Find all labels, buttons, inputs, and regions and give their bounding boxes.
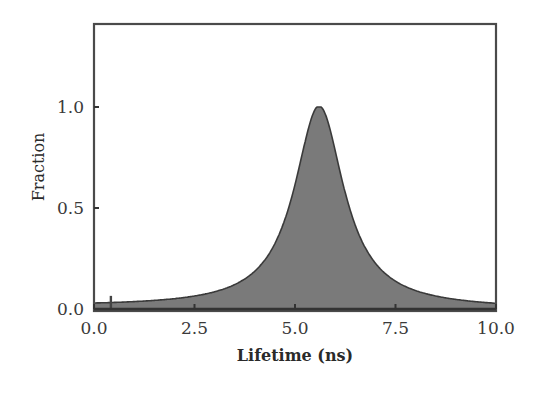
x-tick-label: 7.5 (382, 318, 409, 338)
x-tick-label: 10.0 (477, 318, 515, 338)
x-axis-title: Lifetime (ns) (237, 346, 353, 365)
x-tick-label: 5.0 (281, 318, 308, 338)
y-tick-label: 0.0 (57, 299, 84, 319)
y-axis-title: Fraction (29, 133, 48, 202)
lifetime-chart: 0.02.55.07.510.0 0.00.51.0 Lifetime (ns)… (0, 0, 536, 393)
x-tick-label: 0.0 (80, 318, 107, 338)
x-tick-label: 2.5 (181, 318, 208, 338)
y-tick-label: 0.5 (57, 198, 84, 218)
y-tick-label: 1.0 (57, 97, 84, 117)
